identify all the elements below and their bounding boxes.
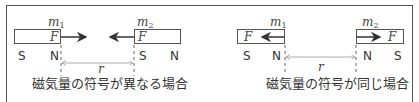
arrows-and-guides xyxy=(0,0,419,102)
